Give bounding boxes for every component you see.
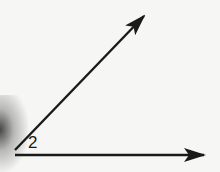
angle-label: 2 [28, 134, 37, 151]
upper-ray [15, 16, 144, 150]
